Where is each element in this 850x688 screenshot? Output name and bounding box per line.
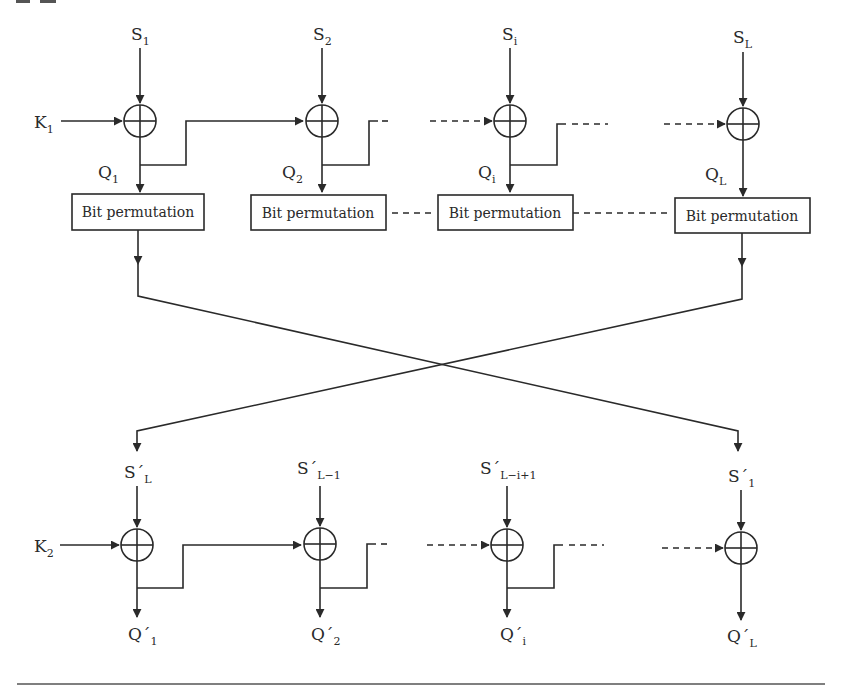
bottom-stage-i: S´L−i+1 Q´i	[427, 458, 604, 648]
bottom-stage-1: S´L Q´1	[121, 462, 301, 648]
input-s-prime-L-1-label: S´L−1	[297, 458, 341, 482]
top-stage-L: SL QL Bit permutation	[664, 27, 810, 266]
input-s-prime-L-i-1-label: S´L−i+1	[480, 458, 536, 482]
bit-permutation-label: Bit permutation	[449, 205, 562, 221]
output-q-prime-1-label: Q´1	[128, 624, 157, 648]
crossover-lines	[137, 264, 742, 451]
input-s1-label: S1	[131, 24, 150, 48]
output-q1-label: Q1	[98, 162, 119, 186]
output-q-prime-L-label: Q´L	[727, 626, 757, 650]
output-ql-label: QL	[705, 164, 727, 188]
diagram-canvas: K1 S1 Q1 Bit permutation S2 Q2 Bit permu…	[0, 0, 850, 688]
xor-icon	[306, 105, 338, 137]
svg-text:K2: K2	[34, 536, 54, 560]
bit-permutation-label: Bit permutation	[82, 204, 195, 220]
input-sl-label: SL	[733, 27, 753, 51]
xor-icon	[725, 532, 757, 564]
bottom-stage-L: S´1 Q´L	[662, 466, 757, 650]
input-s-prime-L-label: S´L	[124, 462, 152, 486]
bit-permutation-label: Bit permutation	[262, 205, 375, 221]
cipher-diagram: K1 S1 Q1 Bit permutation S2 Q2 Bit permu…	[0, 0, 850, 688]
key-k1-label: K1	[34, 112, 54, 136]
output-q2-label: Q2	[282, 162, 303, 186]
cropped-heading-fragment	[16, 0, 56, 3]
xor-icon	[491, 529, 523, 561]
xor-icon	[121, 529, 153, 561]
chain-line-1-2	[140, 121, 303, 165]
xor-icon	[727, 108, 759, 140]
input-s-prime-1-label: S´1	[728, 466, 755, 490]
svg-text:K1: K1	[34, 112, 54, 136]
input-si-label: Si	[502, 24, 518, 48]
output-q-prime-2-label: Q´2	[311, 624, 340, 648]
xor-icon	[304, 528, 336, 560]
top-stage-2: S2 Q2 Bit permutation	[251, 24, 392, 230]
chain-line-b1-b2	[137, 545, 301, 588]
xor-icon	[494, 105, 526, 137]
output-q-prime-i-label: Q´i	[500, 624, 526, 648]
xor-icon	[124, 105, 156, 137]
input-s2-label: S2	[313, 24, 332, 48]
bottom-stage-2: S´L−1 Q´2	[297, 458, 390, 648]
output-qi-label: Qi	[478, 162, 496, 186]
bit-permutation-label: Bit permutation	[686, 208, 799, 224]
key-k2-label: K2	[34, 536, 54, 560]
top-stage-i: Si Qi Bit permutation	[430, 24, 608, 230]
